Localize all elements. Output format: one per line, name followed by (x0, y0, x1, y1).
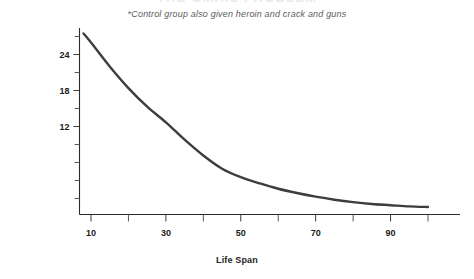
x-tick-label: 50 (236, 228, 246, 238)
y-tick-label: 18 (59, 86, 69, 96)
x-tick-label: 30 (161, 228, 171, 238)
x-tick-label: 10 (86, 228, 96, 238)
data-series-group (84, 34, 428, 208)
y-axis-ticks: 241812 (59, 37, 79, 199)
x-axis-ticks: 1030507090 (86, 215, 428, 238)
y-tick-label: 24 (59, 50, 69, 60)
series-line (84, 34, 428, 208)
chart-container: THE GMAIL PROBLEM *Control group also gi… (0, 0, 474, 279)
plot-area: 241812 1030507090 (0, 0, 474, 279)
y-tick-label: 12 (59, 122, 69, 132)
x-tick-label: 90 (386, 228, 396, 238)
x-tick-label: 70 (311, 228, 321, 238)
